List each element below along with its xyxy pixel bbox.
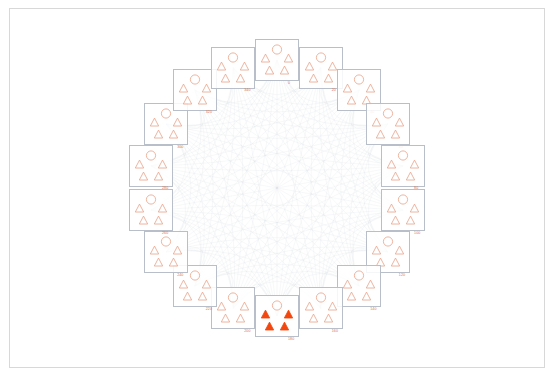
triangle-glyph [348, 292, 356, 300]
triangle-glyph [154, 130, 162, 138]
graph-node-thumbnail[interactable] [255, 295, 299, 337]
node-label: 300 [177, 146, 183, 150]
circle-glyph [162, 109, 171, 118]
graph-node-thumbnail[interactable] [211, 47, 255, 89]
triangle-glyph [391, 216, 399, 224]
circle-glyph [316, 53, 325, 62]
graph-node-thumbnail[interactable] [381, 145, 425, 187]
triangle-glyph [391, 258, 399, 266]
circle-glyph [383, 237, 392, 246]
graph-node-thumbnail[interactable] [129, 145, 173, 187]
triangle-glyph [150, 246, 158, 254]
circle-glyph [355, 271, 364, 280]
triangle-glyph [363, 292, 371, 300]
triangle-glyph [305, 62, 313, 70]
graph-node-thumbnail[interactable] [366, 103, 410, 145]
triangle-glyph [261, 310, 269, 318]
triangle-glyph [284, 310, 292, 318]
node-label: 20 [332, 89, 336, 93]
triangle-glyph [391, 172, 399, 180]
triangle-glyph [183, 96, 191, 104]
triangle-glyph [284, 54, 292, 62]
triangle-glyph [376, 130, 384, 138]
triangle-glyph [309, 74, 317, 82]
graph-node-thumbnail[interactable] [381, 189, 425, 231]
triangle-glyph [183, 292, 191, 300]
node-label: 160 [332, 330, 338, 334]
triangle-glyph [348, 96, 356, 104]
triangle-glyph [387, 160, 395, 168]
triangle-glyph [173, 246, 181, 254]
triangle-glyph [328, 302, 336, 310]
triangle-glyph [135, 160, 143, 168]
node-label: 140 [370, 308, 376, 312]
triangle-glyph [241, 302, 249, 310]
graph-node-thumbnail[interactable] [255, 39, 299, 81]
triangle-glyph [154, 172, 162, 180]
triangle-glyph [179, 280, 187, 288]
triangle-glyph [309, 314, 317, 322]
triangle-glyph [179, 84, 187, 92]
triangle-glyph [198, 96, 206, 104]
triangle-glyph [173, 118, 181, 126]
triangle-glyph [150, 118, 158, 126]
triangle-glyph [344, 280, 352, 288]
triangle-glyph [280, 66, 288, 74]
circle-glyph [190, 75, 199, 84]
triangle-glyph [237, 314, 245, 322]
triangle-glyph [367, 280, 375, 288]
graph-node-thumbnail[interactable] [299, 287, 343, 329]
triangle-glyph [135, 204, 143, 212]
triangle-glyph [154, 216, 162, 224]
diagram-canvas: 0 20 40 60 80 [0, 0, 555, 377]
graph-node-thumbnail[interactable] [144, 231, 188, 273]
circle-glyph [355, 75, 364, 84]
node-label: 0 [288, 82, 290, 86]
circle-glyph [272, 301, 281, 310]
triangle-glyph [198, 292, 206, 300]
triangle-glyph [328, 62, 336, 70]
graph-node-thumbnail[interactable] [173, 69, 217, 111]
circle-glyph [229, 53, 238, 62]
triangle-glyph [367, 84, 375, 92]
node-layer: 0 20 40 60 80 [0, 0, 555, 377]
triangle-glyph [395, 246, 403, 254]
node-label: 220 [206, 308, 212, 312]
node-label: 240 [177, 274, 183, 278]
triangle-glyph [218, 302, 226, 310]
graph-node-thumbnail[interactable] [299, 47, 343, 89]
triangle-glyph [324, 314, 332, 322]
graph-node-thumbnail[interactable] [211, 287, 255, 329]
circle-glyph [162, 237, 171, 246]
circle-glyph [398, 151, 407, 160]
graph-node-thumbnail[interactable] [337, 265, 381, 307]
triangle-glyph [158, 204, 166, 212]
triangle-glyph [169, 258, 177, 266]
triangle-glyph [406, 172, 414, 180]
triangle-glyph [154, 258, 162, 266]
triangle-glyph [222, 74, 230, 82]
triangle-glyph [139, 216, 147, 224]
triangle-glyph [222, 314, 230, 322]
triangle-glyph [410, 204, 418, 212]
circle-glyph [272, 45, 281, 54]
triangle-glyph [265, 66, 273, 74]
triangle-glyph [218, 62, 226, 70]
node-label: 280 [162, 187, 168, 191]
circle-glyph [190, 271, 199, 280]
triangle-glyph [280, 322, 288, 330]
triangle-glyph [372, 246, 380, 254]
node-label: 120 [399, 274, 405, 278]
circle-glyph [146, 151, 155, 160]
node-label: 200 [244, 330, 250, 334]
circle-glyph [398, 195, 407, 204]
circle-glyph [316, 293, 325, 302]
graph-node-thumbnail[interactable] [129, 189, 173, 231]
triangle-glyph [387, 204, 395, 212]
node-label: 260 [162, 232, 168, 236]
triangle-glyph [237, 74, 245, 82]
triangle-glyph [391, 130, 399, 138]
triangle-glyph [410, 160, 418, 168]
triangle-glyph [158, 160, 166, 168]
triangle-glyph [169, 130, 177, 138]
